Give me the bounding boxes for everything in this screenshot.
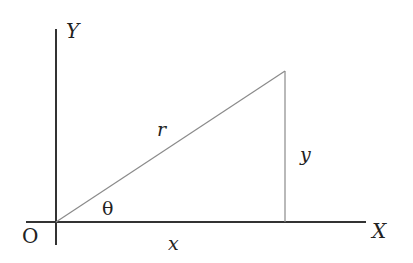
- y-axis-label: Y: [66, 19, 81, 43]
- angle-theta-label: θ: [102, 197, 113, 219]
- hypotenuse-label: r: [157, 118, 168, 140]
- vertical-leg-label: y: [299, 143, 311, 165]
- x-axis-label: X: [370, 219, 387, 243]
- horizontal-leg-label: x: [168, 232, 179, 254]
- origin-label: O: [22, 224, 38, 248]
- hypotenuse-r: [56, 71, 285, 222]
- polar-coordinate-diagram: Y X O r y x θ: [0, 0, 413, 263]
